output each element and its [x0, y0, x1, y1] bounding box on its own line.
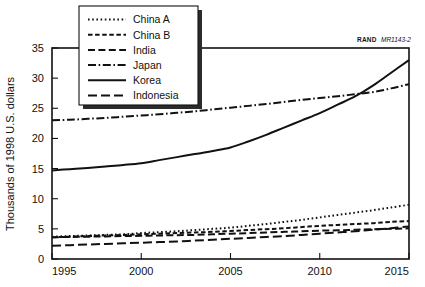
rand-credit-id: MR1143-2 [381, 36, 411, 43]
y-tick-label: 5 [38, 223, 44, 235]
legend-label-japan: Japan [133, 59, 162, 71]
y-tick-label: 10 [32, 193, 44, 205]
x-tick-label: 2000 [129, 265, 153, 277]
y-axis-title-text: Thousands of 1998 U.S. dollars [4, 76, 16, 231]
x-tick-label: 2010 [308, 265, 332, 277]
y-axis-title: Thousands of 1998 U.S. dollars [4, 76, 16, 231]
y-tick-label: 25 [32, 102, 44, 114]
y-tick-label: 15 [32, 163, 44, 175]
x-tick-label: 2015 [385, 265, 409, 277]
legend-label-korea: Korea [133, 74, 161, 86]
legend-label-indonesia: Indonesia [133, 89, 179, 101]
line-chart: Thousands of 1998 U.S. dollars 051015202… [0, 0, 425, 287]
rand-credit-prefix: RAND [357, 36, 377, 43]
rand-credit: RAND MR1143-2 [357, 36, 411, 43]
chart-background [0, 0, 425, 287]
x-tick-label: 2005 [218, 265, 242, 277]
chart-figure: Thousands of 1998 U.S. dollars 051015202… [0, 0, 425, 287]
y-tick-label: 20 [32, 132, 44, 144]
y-tick-label: 30 [32, 72, 44, 84]
x-tick-label: 1995 [52, 265, 76, 277]
y-tick-label: 0 [38, 253, 44, 265]
chart-legend: China AChina BIndiaJapanKoreaIndonesia [79, 6, 202, 109]
legend-label-china-a: China A [133, 13, 170, 25]
y-tick-label: 35 [32, 42, 44, 54]
legend-label-china-b: China B [133, 29, 170, 41]
legend-label-india: India [133, 44, 156, 56]
